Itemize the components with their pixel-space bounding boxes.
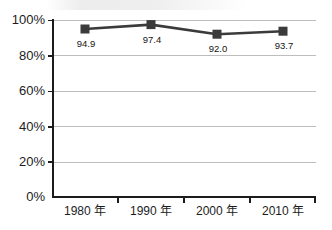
x-tick-label-1990: 1990 年	[130, 204, 172, 218]
data-label-2000: 92.0	[209, 43, 228, 54]
data-point-marker-2010	[279, 27, 288, 36]
y-tick-label-0: 0%	[26, 189, 45, 204]
chart-canvas: 100% 80% 60% 40% 20% 0% 1980 年 1990 年 20…	[0, 0, 332, 230]
x-tick-label-2010: 2010 年	[262, 204, 304, 218]
y-tick-label-80: 80%	[19, 48, 45, 63]
data-point-marker-1990	[147, 20, 156, 29]
y-tick-label-100: 100%	[12, 12, 46, 27]
y-tick-label-20: 20%	[19, 154, 45, 169]
data-label-1980: 94.9	[77, 38, 96, 49]
data-point-marker-1980	[81, 25, 90, 34]
data-label-2010: 93.7	[275, 40, 294, 51]
y-tick-label-40: 40%	[19, 119, 45, 134]
data-label-1990: 97.4	[143, 34, 162, 45]
x-tick-label-1980: 1980 年	[64, 204, 106, 218]
line-chart: 100% 80% 60% 40% 20% 0% 1980 年 1990 年 20…	[0, 0, 332, 230]
x-tick-label-2000: 2000 年	[196, 204, 238, 218]
y-tick-label-60: 60%	[19, 83, 45, 98]
data-point-marker-2000	[213, 30, 222, 39]
